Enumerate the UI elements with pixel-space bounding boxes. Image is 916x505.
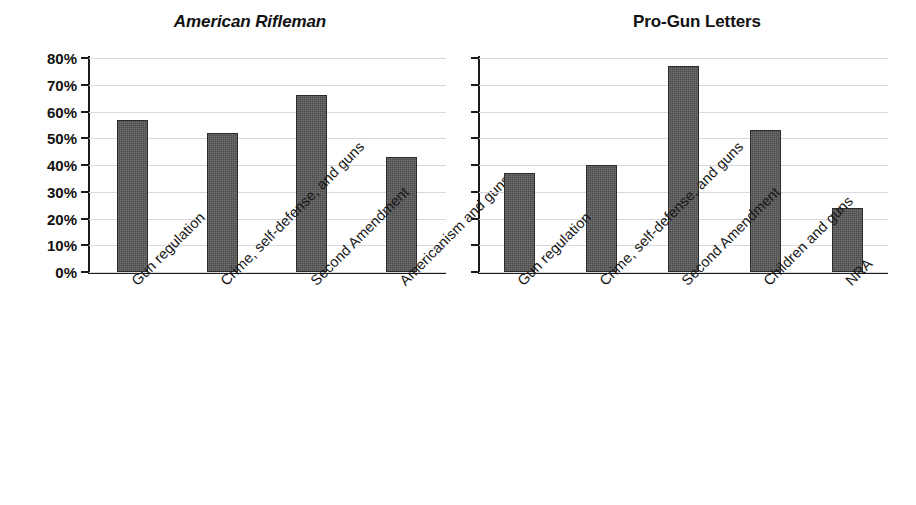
- y-axis-label: 60%: [47, 103, 77, 120]
- y-axis-tick: [471, 137, 479, 139]
- gridline: [88, 85, 446, 86]
- bar: [668, 66, 699, 272]
- y-axis-tick: [81, 57, 89, 59]
- y-axis-label: 0%: [55, 264, 77, 281]
- y-axis-tick: [471, 271, 479, 273]
- y-axis-tick: [471, 84, 479, 86]
- y-axis-label: 80%: [47, 50, 77, 67]
- bar: [832, 208, 863, 272]
- y-axis-tick: [471, 164, 479, 166]
- y-axis-tick: [471, 57, 479, 59]
- y-axis-label: 20%: [47, 210, 77, 227]
- figure-two-panel-bar-charts: American Rifleman 80%70%60%50%40%30%20%1…: [0, 0, 916, 505]
- y-axis-tick: [81, 271, 89, 273]
- y-axis-label: 30%: [47, 183, 77, 200]
- gridline: [88, 112, 446, 113]
- y-axis-tick: [81, 137, 89, 139]
- y-axis-tick: [81, 84, 89, 86]
- bar: [750, 130, 781, 272]
- y-axis-label: 70%: [47, 76, 77, 93]
- y-axis-tick: [471, 191, 479, 193]
- bar: [586, 165, 617, 272]
- plot-area-left: 80%70%60%50%40%30%20%10%0%: [88, 58, 446, 272]
- y-axis-label: 40%: [47, 157, 77, 174]
- y-axis-tick: [81, 244, 89, 246]
- chart-title-right: Pro-Gun Letters: [460, 12, 916, 32]
- bar: [207, 133, 238, 272]
- chart-title-left: American Rifleman: [0, 12, 460, 32]
- y-axis-tick: [471, 218, 479, 220]
- chart-panel-pro-gun-letters: Pro-Gun Letters Gun regulationCrime, sel…: [460, 0, 916, 505]
- y-axis-tick: [81, 164, 89, 166]
- bar: [296, 95, 327, 272]
- gridline: [88, 272, 446, 273]
- y-axis-label: 10%: [47, 237, 77, 254]
- y-axis-tick: [471, 244, 479, 246]
- y-axis-tick: [81, 111, 89, 113]
- bar: [504, 173, 535, 272]
- gridline: [478, 272, 888, 273]
- bar: [386, 157, 417, 272]
- gridline: [88, 58, 446, 59]
- chart-panel-american-rifleman: American Rifleman 80%70%60%50%40%30%20%1…: [0, 0, 460, 505]
- y-axis-tick: [471, 111, 479, 113]
- gridline: [478, 58, 888, 59]
- bar: [117, 120, 148, 272]
- y-axis-label: 50%: [47, 130, 77, 147]
- plot-area-right: [478, 58, 888, 272]
- y-axis-tick: [81, 191, 89, 193]
- y-axis-tick: [81, 218, 89, 220]
